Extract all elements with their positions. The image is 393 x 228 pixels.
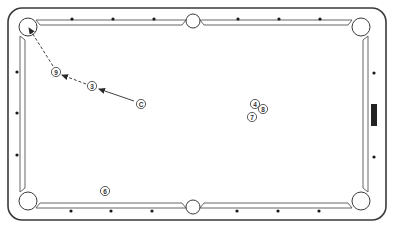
pocket-bottom-left (19, 192, 37, 210)
diamond-bottom-5 (276, 209, 279, 212)
shot-path-cue-to-ball-3 (99, 89, 134, 101)
shot-paths (29, 28, 134, 101)
cue: C (136, 99, 145, 108)
table-frame (8, 8, 386, 220)
diamond-top-5 (277, 17, 280, 20)
diamond-left-1 (15, 70, 18, 73)
ball-8-label: 8 (261, 106, 265, 113)
diamond-bottom-4 (235, 209, 238, 212)
ball-6-label: 6 (103, 188, 107, 195)
cushion-bottom-left (36, 203, 186, 208)
ball-3-label: 3 (90, 83, 94, 90)
diamond-top-6 (318, 17, 321, 20)
ball-7: 7 (247, 112, 256, 121)
cushion-right (363, 36, 368, 192)
diamond-left-3 (15, 153, 18, 156)
ball-3: 3 (87, 81, 96, 90)
diamond-right-2 (372, 155, 375, 158)
pocket-bottom-right (352, 192, 370, 210)
diamond-top-2 (111, 17, 114, 20)
diamond-bottom-3 (150, 209, 153, 212)
cushion-left (20, 36, 25, 192)
ball-4: 4 (250, 99, 259, 108)
ball-4-label: 4 (253, 101, 257, 108)
ball-9: 9 (51, 67, 60, 76)
pool-table-diagram: C394876 (0, 0, 393, 228)
cushion-top-right (200, 20, 352, 25)
ball-9-label: 9 (54, 69, 58, 76)
diamond-bottom-1 (69, 209, 72, 212)
pocket-top-left (19, 18, 37, 36)
cushion-top-left (36, 20, 186, 25)
table-outer-rail (8, 8, 386, 220)
diamond-right-1 (372, 71, 375, 74)
diamond-top-1 (70, 17, 73, 20)
diamond-bottom-6 (317, 209, 320, 212)
diamond-bottom-2 (109, 209, 112, 212)
pool-table: C394876 (0, 0, 393, 228)
diamond-top-4 (236, 17, 239, 20)
pocket-top-center (186, 14, 200, 28)
diamond-top-3 (152, 17, 155, 20)
shot-path-ball-3-to-ball-9 (62, 75, 86, 84)
rail-marker (371, 104, 377, 126)
cue-label: C (139, 101, 144, 108)
ball-7-label: 7 (250, 114, 254, 121)
cushion-bottom-right (200, 203, 352, 208)
balls: C394876 (51, 67, 267, 195)
pocket-top-right (352, 18, 370, 36)
rail-diamonds (15, 17, 377, 212)
pocket-bottom-center (186, 200, 200, 214)
diamond-left-2 (15, 111, 18, 114)
ball-6: 6 (100, 186, 109, 195)
ball-8: 8 (258, 104, 267, 113)
